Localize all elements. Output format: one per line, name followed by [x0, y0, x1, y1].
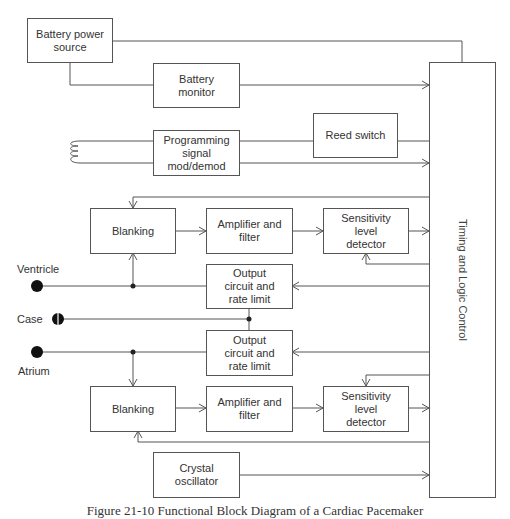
sensitivity-top-label: Sensitivity level detector	[336, 212, 396, 251]
ventricle-terminal	[31, 280, 43, 292]
crystal-oscillator-block: Crystal oscillator	[153, 452, 240, 498]
crystal-oscillator-label: Crystal oscillator	[167, 462, 227, 488]
blanking-bottom-label: Blanking	[112, 403, 154, 416]
amplifier-top-label: Amplifier and filter	[217, 218, 282, 244]
case-label: Case	[17, 313, 43, 325]
atrium-label: Atrium	[18, 365, 50, 377]
battery-power-source-block: Battery power source	[27, 18, 113, 63]
reed-switch-label: Reed switch	[326, 129, 386, 142]
ventricle-label: Ventricle	[17, 263, 59, 275]
reed-switch-block: Reed switch	[313, 113, 398, 158]
amplifier-bottom-block: Amplifier and filter	[206, 386, 293, 432]
blanking-top-block: Blanking	[90, 208, 176, 254]
figure-caption: Figure 21-10 Functional Block Diagram of…	[0, 503, 510, 519]
output-atrium-block: Output circuit and rate limit	[206, 330, 293, 376]
sensitivity-bottom-label: Sensitivity level detector	[336, 390, 396, 429]
output-ventricle-label: Output circuit and rate limit	[220, 267, 280, 306]
output-atrium-label: Output circuit and rate limit	[220, 334, 280, 373]
blanking-bottom-block: Blanking	[90, 386, 176, 432]
battery-monitor-block: Battery monitor	[153, 63, 240, 108]
battery-power-label: Battery power source	[35, 28, 105, 54]
amplifier-bottom-label: Amplifier and filter	[217, 396, 282, 422]
output-ventricle-block: Output circuit and rate limit	[206, 264, 293, 309]
sensitivity-bottom-block: Sensitivity level detector	[323, 386, 409, 432]
timing-logic-label: Timing and Logic Control	[456, 219, 469, 341]
timing-logic-control-block: Timing and Logic Control	[429, 62, 496, 498]
blanking-top-label: Blanking	[112, 225, 154, 238]
atrium-terminal	[31, 346, 43, 358]
battery-monitor-label: Battery monitor	[172, 73, 222, 99]
programming-signal-block: Programming signal mod/demod	[153, 130, 240, 176]
sensitivity-top-block: Sensitivity level detector	[323, 208, 409, 254]
programming-label: Programming signal mod/demod	[159, 134, 234, 173]
amplifier-top-block: Amplifier and filter	[206, 208, 293, 254]
